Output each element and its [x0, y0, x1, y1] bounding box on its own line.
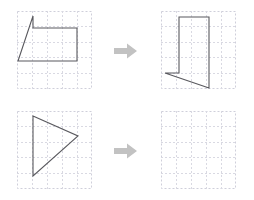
- transform-arrow-bottom: [113, 142, 139, 160]
- target-shape-empty[interactable]: [159, 109, 241, 193]
- arrow-right-icon: [113, 42, 139, 60]
- target-shape-rotated-quadrilateral[interactable]: [159, 9, 241, 93]
- worksheet-stage: [0, 0, 254, 200]
- bottom-right-grid-panel[interactable]: [161, 111, 236, 189]
- top-right-grid-panel[interactable]: [161, 11, 236, 89]
- top-transformation-row: [0, 3, 254, 98]
- source-shape-triangle[interactable]: [15, 109, 97, 193]
- top-left-grid-panel[interactable]: [17, 11, 92, 89]
- bottom-left-grid-panel[interactable]: [17, 111, 92, 189]
- bottom-transformation-row: [0, 103, 254, 198]
- transform-arrow-top: [113, 42, 139, 60]
- arrow-right-icon: [113, 142, 139, 160]
- source-shape-quadrilateral[interactable]: [15, 9, 97, 93]
